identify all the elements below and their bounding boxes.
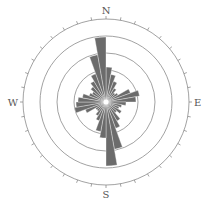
tick-mark <box>21 87 24 88</box>
center-hub <box>104 100 109 105</box>
tick-mark <box>148 28 150 31</box>
label-north: N <box>102 5 111 16</box>
tick-mark <box>178 59 181 61</box>
tick-mark <box>120 17 121 20</box>
tick-mark <box>184 73 187 74</box>
tick-mark <box>134 21 135 24</box>
tick-mark <box>51 36 53 38</box>
tick-mark <box>159 36 161 38</box>
label-west: W <box>8 97 19 108</box>
tick-mark <box>32 59 35 61</box>
tick-mark <box>120 184 121 187</box>
tick-mark <box>51 166 53 168</box>
tick-mark <box>77 180 78 183</box>
rose-diagram: N E S W <box>0 0 213 203</box>
label-east: E <box>194 97 201 108</box>
tick-mark <box>134 180 135 183</box>
tick-mark <box>40 47 42 49</box>
tick-mark <box>25 73 28 74</box>
tick-mark <box>184 130 187 131</box>
tick-mark <box>170 47 172 49</box>
tick-mark <box>188 87 191 88</box>
tick-mark <box>91 17 92 20</box>
tick-mark <box>188 116 191 117</box>
tick-mark <box>159 166 161 168</box>
tick-mark <box>178 144 181 146</box>
tick-mark <box>77 21 78 24</box>
tick-mark <box>148 174 150 177</box>
tick-mark <box>91 184 92 187</box>
tick-mark <box>170 155 172 157</box>
tick-mark <box>63 28 65 31</box>
label-south: S <box>103 189 110 200</box>
tick-mark <box>63 174 65 177</box>
tick-mark <box>25 130 28 131</box>
tick-mark <box>21 116 24 117</box>
tick-mark <box>40 155 42 157</box>
tick-mark <box>32 144 35 146</box>
